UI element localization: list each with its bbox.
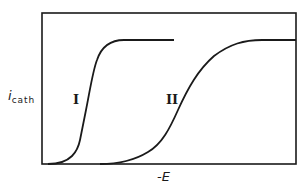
y-axis-label: icath xyxy=(8,88,35,105)
x-axis-label: -E xyxy=(157,169,170,184)
chart-canvas xyxy=(0,0,304,191)
curve-II-label: II xyxy=(166,92,178,107)
curve-I xyxy=(48,40,174,164)
curve-I-label: I xyxy=(73,92,79,107)
curve-II xyxy=(100,40,296,164)
